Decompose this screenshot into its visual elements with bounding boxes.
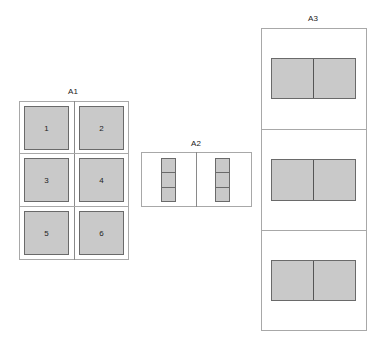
a1-row-divider-1 (19, 153, 129, 154)
panel-divider (313, 160, 314, 200)
a2-right-strip (215, 158, 230, 202)
layout-a2-label: A2 (191, 139, 201, 149)
a3-panel-2 (271, 159, 356, 201)
a1-page-2: 2 (79, 106, 124, 150)
strip-segment (216, 173, 229, 187)
a1-page-4: 4 (79, 158, 124, 202)
a3-section-divider-1 (261, 129, 367, 130)
page-number: 1 (44, 124, 48, 133)
a1-page-3: 3 (24, 158, 69, 202)
page-number: 3 (44, 176, 48, 185)
panel-divider (313, 261, 314, 300)
page-number: 2 (99, 124, 103, 133)
a2-divider (196, 152, 197, 207)
page-number: 6 (99, 229, 103, 238)
a1-column-divider (74, 101, 75, 260)
page-number: 5 (44, 229, 48, 238)
a3-panel-3 (271, 260, 356, 301)
strip-segment (162, 173, 175, 187)
strip-segment (162, 188, 175, 201)
a1-page-1: 1 (24, 106, 69, 150)
strip-segment (216, 188, 229, 201)
a2-left-strip (161, 158, 176, 202)
a3-panel-1 (271, 58, 356, 99)
layout-a1-label: A1 (68, 87, 78, 97)
panel-divider (313, 59, 314, 98)
a3-section-divider-2 (261, 230, 367, 231)
layout-a3-label: A3 (308, 14, 318, 24)
a1-row-divider-2 (19, 206, 129, 207)
strip-segment (162, 159, 175, 173)
a1-page-5: 5 (24, 211, 69, 255)
a1-page-6: 6 (79, 211, 124, 255)
strip-segment (216, 159, 229, 173)
page-number: 4 (99, 176, 103, 185)
